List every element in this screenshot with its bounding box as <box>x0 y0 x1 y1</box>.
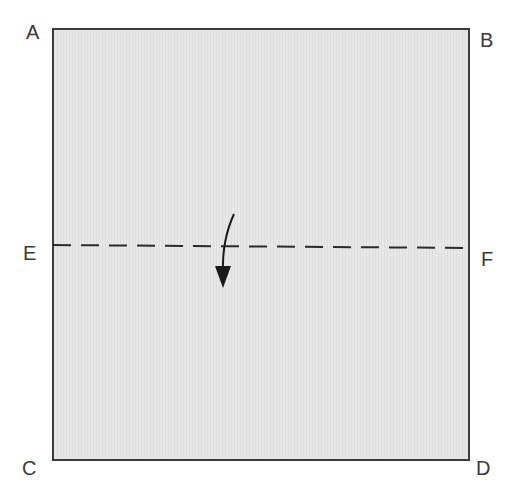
corner-label-b: B <box>480 30 493 50</box>
corner-label-d: D <box>476 458 490 478</box>
midpoint-label-e: E <box>23 243 36 263</box>
corner-label-c: C <box>22 458 36 478</box>
corner-label-a: A <box>26 22 39 42</box>
origami-diagram <box>0 0 509 491</box>
midpoint-label-f: F <box>481 249 493 269</box>
